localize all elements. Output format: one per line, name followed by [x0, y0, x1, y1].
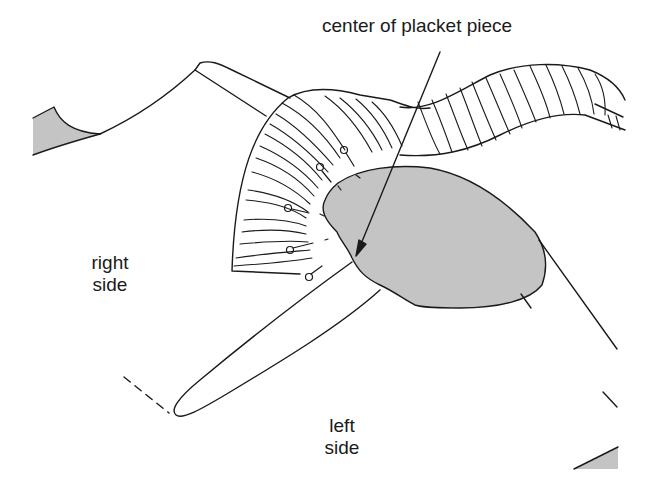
garment-side-seam — [539, 240, 617, 349]
left-side-label: left side — [318, 415, 366, 459]
left-side-label-line1: left — [318, 415, 366, 437]
callout-label: center of placket piece — [322, 15, 512, 37]
left-side-label-line2: side — [318, 437, 366, 459]
garment-neckline — [100, 62, 290, 134]
dashed-fold-line — [124, 377, 169, 413]
pin-2 — [317, 164, 332, 183]
right-side-label-line2: side — [82, 274, 138, 296]
shaded-corner-top-left — [33, 107, 100, 155]
pin-1 — [341, 147, 355, 167]
slash-opening — [174, 262, 380, 416]
right-side-label: right side — [82, 252, 138, 296]
garment-inner-neckline — [195, 70, 266, 116]
wavy-band-stripes — [418, 65, 620, 154]
diagram-canvas: center of placket piece right side left … — [0, 0, 653, 502]
pin-5 — [306, 266, 323, 281]
right-side-label-line1: right — [82, 252, 138, 274]
wavy-band-bottom — [400, 114, 625, 155]
shaded-placket-piece — [323, 167, 546, 308]
